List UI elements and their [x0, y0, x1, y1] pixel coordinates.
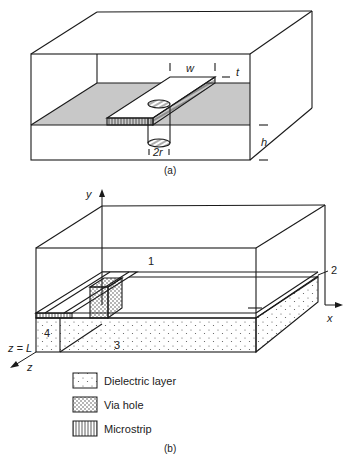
figure-b — [10, 189, 343, 368]
label-t: t — [236, 66, 240, 78]
axis-label-x: x — [326, 312, 333, 324]
caption-a: (a) — [164, 165, 176, 176]
dielectric-side — [256, 276, 318, 352]
legend-label-dielectric: Dielectric layer — [104, 375, 176, 387]
microstrip-via-diagram: w t h 2r (a) — [0, 0, 363, 456]
figure-a — [31, 11, 312, 160]
label-2r: 2r — [152, 146, 164, 158]
region-label-3: 3 — [114, 339, 120, 351]
region-label-4: 4 — [44, 327, 50, 339]
dielectric-front — [36, 318, 256, 352]
axis-label-z: z — [26, 361, 33, 373]
label-w: w — [186, 62, 195, 74]
legend-swatch-dielectric — [73, 373, 97, 388]
legend — [73, 373, 97, 436]
via-top — [148, 100, 170, 108]
region-label-2: 2 — [331, 264, 337, 276]
legend-swatch-via — [73, 397, 97, 412]
axis-label-y: y — [85, 188, 93, 200]
caption-b: (b) — [164, 443, 176, 454]
legend-label-microstrip: Microstrip — [104, 423, 152, 435]
via-block-front — [90, 287, 108, 318]
region-label-1: 1 — [148, 255, 154, 267]
microstrip-front-edge — [107, 118, 153, 125]
axis-label-z-equals-L: z = L — [7, 342, 32, 354]
label-h: h — [261, 136, 267, 148]
legend-label-via: Via hole — [104, 399, 144, 411]
legend-swatch-microstrip — [73, 421, 97, 436]
